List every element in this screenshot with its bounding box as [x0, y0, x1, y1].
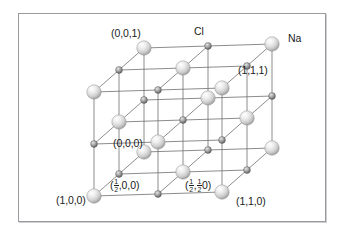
chlorine-ion [87, 189, 101, 203]
fraction-denominator: 2 [197, 186, 202, 193]
sodium-ion [205, 147, 212, 154]
sodium-ion [155, 191, 162, 198]
lattice-bond [144, 150, 208, 152]
coordinate-label-c111: (1,1,1) [238, 65, 268, 76]
fraction-numerator: 1 [114, 178, 119, 186]
chlorine-ion [112, 115, 126, 129]
coordinate-label-chalf00: (12,0,0) [110, 178, 139, 194]
chlorine-ion [201, 91, 215, 105]
lattice-bond [158, 140, 222, 142]
chlorine-ion [215, 81, 229, 95]
coordinate-label-c110: (1,1,0) [236, 196, 266, 207]
lattice-bond [144, 46, 208, 48]
lattice-bond [208, 44, 272, 46]
sodium-ion [205, 43, 212, 50]
chlorine-ion [265, 141, 279, 155]
lattice-bond [183, 170, 247, 172]
sodium-ion [180, 117, 187, 124]
lattice-bond [208, 148, 272, 150]
coordinate-label-c100: (1,0,0) [56, 195, 86, 206]
one-half-fraction: 12 [114, 178, 119, 194]
sodium-ion [269, 93, 276, 100]
sodium-ion [116, 171, 123, 178]
lattice-bond [183, 118, 247, 120]
lattice-bond [208, 96, 272, 98]
sodium-ion [155, 87, 162, 94]
label-text-part: ,0,0) [119, 179, 140, 191]
coordinate-label-c001: (0,0,1) [111, 28, 141, 39]
chlorine-ion [137, 41, 151, 55]
fraction-denominator: 2 [114, 186, 119, 193]
coordinate-label-c000: (0,0,0) [113, 138, 143, 149]
fraction-numerator: 1 [197, 178, 202, 186]
sodium-ion [219, 137, 226, 144]
chlorine-ion [176, 61, 190, 75]
chlorine-ion [151, 135, 165, 149]
one-half-fraction: 12 [197, 178, 202, 194]
lattice-bond [94, 90, 158, 92]
sodium-ion [116, 67, 123, 74]
na-label: Na [288, 33, 301, 44]
fraction-numerator: 1 [189, 178, 194, 186]
lattice-bond [158, 88, 222, 90]
lattice-bond [119, 172, 183, 174]
label-text-part: 0) [202, 179, 211, 191]
chlorine-ion [240, 111, 254, 125]
one-half-fraction: 12 [189, 178, 194, 194]
lattice-bond [144, 98, 208, 100]
chlorine-ion [215, 185, 229, 199]
figure-root: ClNa(0,0,1)(1,1,1)(0,0,0)(1,0,0)(1,1,0)(… [0, 0, 341, 235]
coordinate-label-chalfhalf0: (12,120) [185, 178, 211, 194]
lattice-bond [119, 68, 183, 70]
lattice-bond [94, 194, 158, 196]
sodium-ion [141, 97, 148, 104]
cl-label: Cl [194, 26, 204, 37]
sodium-ion [91, 141, 98, 148]
chlorine-ion [265, 37, 279, 51]
sodium-ion [244, 167, 251, 174]
lattice-bond [119, 120, 183, 122]
chlorine-ion [87, 85, 101, 99]
fraction-denominator: 2 [189, 186, 194, 193]
